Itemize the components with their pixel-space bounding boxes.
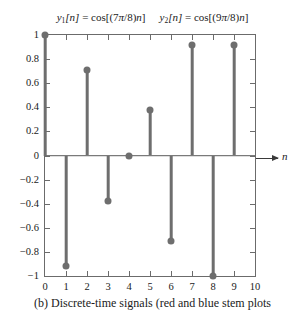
plot-area: 10.80.60.40.20−0.2−0.4−0.6−0.8−101234567…	[44, 34, 256, 277]
stem-marker	[231, 41, 238, 48]
equation-y1: y1[n] = cos[(7π/8)n]	[57, 11, 146, 25]
y-axis-tick	[250, 180, 255, 181]
x-axis-tick-label: 7	[189, 281, 194, 292]
x-axis-tick-label: 0	[42, 281, 47, 292]
stem-marker	[105, 198, 112, 205]
y-axis-tick-label: −0.4	[20, 199, 39, 209]
stem-marker	[210, 273, 217, 280]
y-axis-tick-label: 1	[34, 30, 39, 40]
x-axis-tick	[108, 35, 109, 40]
y-axis-tick	[250, 204, 255, 205]
x-axis-tick-label: 3	[105, 281, 110, 292]
y-axis-tick	[250, 107, 255, 108]
x-axis-tick	[192, 35, 193, 40]
stem-marker	[84, 66, 91, 73]
x-axis-tick	[66, 35, 67, 40]
figure-caption: (b) Discrete-time signals (red and blue …	[0, 296, 305, 310]
y-axis-tick-label: 0.2	[26, 126, 39, 136]
stem-line	[212, 156, 215, 277]
x-axis-tick-label: 6	[168, 281, 173, 292]
y-axis-tick-label: 0	[34, 151, 39, 161]
stem-line	[86, 70, 89, 156]
x-axis-tick-label: 2	[84, 281, 89, 292]
y-axis-tick-label: 0.6	[26, 78, 39, 88]
stem-line	[44, 35, 47, 156]
x-axis-tick-label: 1	[63, 281, 68, 292]
stem-marker	[189, 41, 196, 48]
stem-marker	[168, 238, 175, 245]
x-axis-tick	[171, 271, 172, 276]
y-axis-tick	[45, 180, 50, 181]
equation-y2: y2[n] = cos[(9π/8)n]	[160, 11, 249, 25]
x-axis-arrow	[256, 158, 278, 159]
x-axis-tick-label: 4	[126, 281, 131, 292]
x-axis-tick	[87, 35, 88, 40]
x-axis-tick	[66, 271, 67, 276]
stem-line	[65, 156, 68, 267]
y-axis-tick-label: −1	[28, 271, 39, 281]
x-axis-tick	[129, 271, 130, 276]
y-axis-tick	[45, 204, 50, 205]
stem-marker	[126, 152, 133, 159]
y-axis-tick	[250, 131, 255, 132]
x-axis-tick-label: 10	[250, 281, 261, 292]
x-axis-tick	[234, 271, 235, 276]
x-axis-tick	[234, 35, 235, 40]
y-axis-tick-label: −0.2	[20, 175, 39, 185]
x-axis-label: n	[282, 150, 288, 162]
y-axis-tick	[45, 228, 50, 229]
y-axis-tick-label: 0.8	[26, 54, 39, 64]
y-axis-tick	[45, 252, 50, 253]
x-axis-tick	[171, 35, 172, 40]
y-axis-tick	[250, 83, 255, 84]
stem-marker	[63, 263, 70, 270]
x-axis-tick	[192, 271, 193, 276]
x-axis-tick	[150, 271, 151, 276]
y-axis-tick-label: −0.8	[20, 247, 39, 257]
x-axis-tick-label: 9	[231, 281, 236, 292]
chart-title: y1[n] = cos[(7π/8)n]y2[n] = cos[(9π/8)n]	[0, 11, 305, 25]
x-axis-tick-label: 8	[210, 281, 215, 292]
y-axis-tick-label: −0.6	[20, 223, 39, 233]
x-axis-tick	[150, 35, 151, 40]
y-axis-tick-label: 0.4	[26, 102, 39, 112]
y-axis-tick	[250, 156, 255, 157]
x-axis-tick	[108, 271, 109, 276]
x-axis-tick	[129, 35, 130, 40]
y-axis-tick	[250, 59, 255, 60]
y-axis-tick	[250, 252, 255, 253]
stem-line	[170, 156, 173, 242]
stem-line	[107, 156, 110, 202]
stem-line	[233, 45, 236, 156]
y-axis-tick	[45, 156, 50, 157]
x-axis-tick-label: 5	[147, 281, 152, 292]
y-axis-tick	[250, 228, 255, 229]
x-axis-tick	[87, 271, 88, 276]
stem-line	[191, 45, 194, 156]
figure-panel: y1[n] = cos[(7π/8)n]y2[n] = cos[(9π/8)n]…	[0, 0, 305, 314]
stem-marker	[147, 106, 154, 113]
stem-line	[149, 110, 152, 156]
stem-marker	[42, 32, 49, 39]
x-axis-tick	[213, 35, 214, 40]
